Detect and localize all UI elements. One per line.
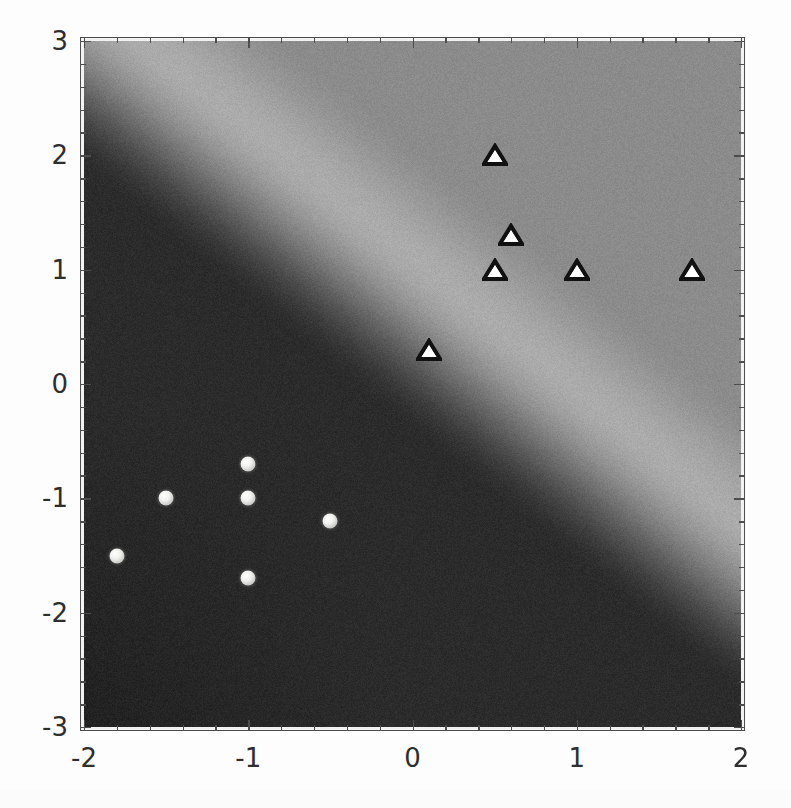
- x-minor-tick: [117, 725, 118, 731]
- y-minor-tick-right: [739, 247, 745, 248]
- y-minor-tick: [80, 361, 86, 362]
- y-major-tick: [80, 498, 91, 499]
- y-minor-tick: [80, 87, 86, 88]
- y-major-tick-right: [734, 727, 745, 728]
- x-minor-tick-top: [708, 37, 709, 43]
- x-minor-tick: [642, 725, 643, 731]
- x-axis-tick-label: -2: [71, 745, 97, 771]
- y-axis-tick-label: 1: [51, 257, 68, 283]
- y-minor-tick: [80, 338, 86, 339]
- y-minor-tick-right: [739, 430, 745, 431]
- y-minor-tick: [80, 293, 86, 294]
- y-minor-tick-right: [739, 453, 745, 454]
- y-minor-tick: [80, 453, 86, 454]
- y-minor-tick: [80, 178, 86, 179]
- x-minor-tick-top: [445, 37, 446, 43]
- x-minor-tick: [708, 725, 709, 731]
- x-major-tick: [741, 720, 742, 731]
- x-major-tick: [248, 720, 249, 731]
- y-minor-tick-right: [739, 567, 745, 568]
- x-minor-tick: [183, 725, 184, 731]
- x-minor-tick: [150, 725, 151, 731]
- x-major-tick-top: [248, 37, 249, 48]
- x-minor-tick: [544, 725, 545, 731]
- y-axis-tick-label: -1: [42, 485, 68, 511]
- y-minor-tick: [80, 521, 86, 522]
- x-minor-tick-top: [380, 37, 381, 43]
- density-plot-image: [84, 41, 741, 727]
- y-minor-tick: [80, 64, 86, 65]
- x-minor-tick: [281, 725, 282, 731]
- y-minor-tick: [80, 567, 86, 568]
- y-minor-tick: [80, 201, 86, 202]
- y-major-tick: [80, 270, 91, 271]
- y-axis-tick-label: -3: [42, 714, 68, 740]
- x-axis-tick-label: 1: [568, 745, 585, 771]
- y-major-tick: [80, 727, 91, 728]
- y-minor-tick-right: [739, 87, 745, 88]
- x-minor-tick-top: [150, 37, 151, 43]
- y-minor-tick-right: [739, 64, 745, 65]
- y-minor-tick-right: [739, 361, 745, 362]
- x-minor-tick-top: [675, 37, 676, 43]
- y-axis-tick-label: -2: [42, 600, 68, 626]
- y-minor-tick: [80, 132, 86, 133]
- y-axis-tick-label: 0: [51, 371, 68, 397]
- x-minor-tick: [445, 725, 446, 731]
- y-minor-tick-right: [739, 475, 745, 476]
- x-minor-tick-top: [511, 37, 512, 43]
- y-minor-tick-right: [739, 544, 745, 545]
- y-minor-tick-right: [739, 110, 745, 111]
- x-minor-tick: [215, 725, 216, 731]
- y-minor-tick-right: [739, 201, 745, 202]
- y-major-tick-right: [734, 613, 745, 614]
- x-minor-tick: [511, 725, 512, 731]
- x-major-tick-top: [577, 37, 578, 48]
- x-axis-tick-label: -1: [235, 745, 261, 771]
- y-major-tick-right: [734, 41, 745, 42]
- y-minor-tick-right: [739, 658, 745, 659]
- x-minor-tick-top: [314, 37, 315, 43]
- y-minor-tick: [80, 475, 86, 476]
- x-major-tick-top: [741, 37, 742, 48]
- x-minor-tick-top: [215, 37, 216, 43]
- y-major-tick-right: [734, 155, 745, 156]
- x-major-tick: [84, 720, 85, 731]
- y-minor-tick-right: [739, 315, 745, 316]
- x-minor-tick-top: [642, 37, 643, 43]
- y-minor-tick-right: [739, 636, 745, 637]
- y-minor-tick: [80, 658, 86, 659]
- y-minor-tick: [80, 681, 86, 682]
- x-minor-tick: [347, 725, 348, 731]
- y-minor-tick-right: [739, 132, 745, 133]
- y-major-tick-right: [734, 270, 745, 271]
- y-minor-tick: [80, 590, 86, 591]
- y-minor-tick-right: [739, 178, 745, 179]
- y-minor-tick: [80, 224, 86, 225]
- y-minor-tick-right: [739, 407, 745, 408]
- y-axis-tick-label: 3: [51, 28, 68, 54]
- y-minor-tick: [80, 407, 86, 408]
- x-minor-tick-top: [183, 37, 184, 43]
- y-minor-tick: [80, 110, 86, 111]
- x-minor-tick-top: [281, 37, 282, 43]
- y-minor-tick-right: [739, 521, 745, 522]
- y-minor-tick: [80, 704, 86, 705]
- y-minor-tick-right: [739, 224, 745, 225]
- page-bottom-margin: [0, 790, 791, 808]
- x-minor-tick-top: [117, 37, 118, 43]
- y-major-tick: [80, 41, 91, 42]
- y-minor-tick-right: [739, 704, 745, 705]
- y-minor-tick-right: [739, 338, 745, 339]
- x-minor-tick: [380, 725, 381, 731]
- x-major-tick: [577, 720, 578, 731]
- y-minor-tick: [80, 247, 86, 248]
- x-minor-tick-top: [347, 37, 348, 43]
- y-minor-tick-right: [739, 293, 745, 294]
- y-axis-tick-label: 2: [51, 142, 68, 168]
- y-major-tick: [80, 384, 91, 385]
- figure-container: -2-1012-3-2-10123: [0, 0, 791, 808]
- y-major-tick: [80, 155, 91, 156]
- y-minor-tick: [80, 430, 86, 431]
- x-major-tick-top: [84, 37, 85, 48]
